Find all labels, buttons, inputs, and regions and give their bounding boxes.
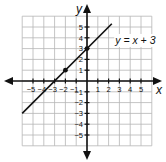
equation-label: y = x + 3 (114, 34, 155, 46)
y-axis-down-arrow-icon (83, 151, 91, 160)
y-tick-label: −2 (74, 98, 83, 107)
y-tick-label: 4 (79, 34, 83, 43)
y-tick-label: 1 (79, 66, 83, 75)
line-series (22, 24, 112, 114)
y-tick-label: −3 (74, 109, 83, 118)
x-axis-left-arrow-icon (4, 77, 13, 85)
x-tick-label: −4 (38, 85, 47, 94)
x-tick-label: −2 (59, 85, 68, 94)
data-point (63, 68, 68, 73)
x-axis-label: x (155, 83, 163, 97)
y-tick-label: −1 (74, 88, 83, 97)
x-tick-label: 5 (139, 85, 143, 94)
x-tick-label: 4 (128, 85, 132, 94)
coordinate-plane: −5−4−3−2−112345−5−4−3−2−112345 x y y = x… (0, 0, 166, 162)
data-point (85, 46, 90, 51)
y-axis-up-arrow-icon (83, 4, 91, 13)
x-tick-label: −5 (27, 85, 36, 94)
x-tick-label: 2 (107, 85, 111, 94)
y-tick-label: 3 (79, 44, 83, 53)
y-tick-label: −4 (74, 120, 83, 129)
y-tick-label: −5 (74, 131, 83, 140)
y-tick-label: 5 (79, 23, 83, 32)
x-tick-label: 1 (96, 85, 100, 94)
x-tick-label: 3 (117, 85, 121, 94)
y-axis-label: y (75, 2, 83, 16)
